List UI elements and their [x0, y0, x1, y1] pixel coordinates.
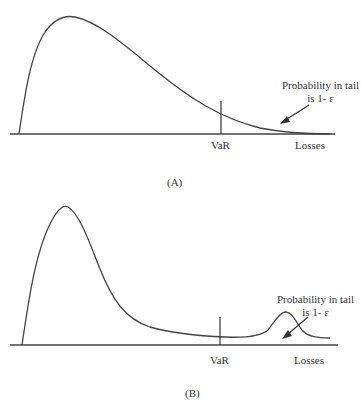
arrow-head-icon	[280, 116, 290, 124]
tail-annotation: Probability in tail is 1- ε	[282, 79, 359, 105]
arrow-line	[288, 317, 308, 334]
var-label: VaR	[211, 139, 230, 151]
tail-annotation: Probability in tail is 1- ε	[277, 293, 354, 319]
annotation-line-2: is 1- ε	[282, 92, 359, 105]
annotation-line-1: Probability in tail	[282, 79, 359, 92]
annotation-line-2: is 1- ε	[277, 306, 354, 319]
diagram-panel-b: Probability in tail is 1- ε VaR Losses (…	[0, 204, 361, 408]
var-label: VaR	[210, 354, 229, 366]
losses-axis-label: Losses	[294, 354, 324, 366]
annotation-line-1: Probability in tail	[277, 293, 354, 306]
diagram-panel-a: Probability in tail is 1- ε VaR Losses (…	[0, 0, 361, 204]
density-curve	[22, 206, 330, 345]
panel-caption: (B)	[185, 387, 200, 399]
losses-axis-label: Losses	[295, 139, 325, 151]
panel-caption: (A)	[167, 176, 182, 188]
density-curve	[19, 16, 330, 134]
